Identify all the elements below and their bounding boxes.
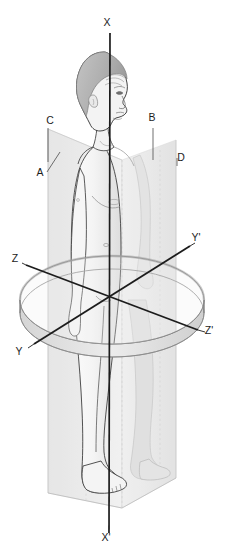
axis-label-y-prime: Y' xyxy=(191,231,200,243)
figure-canvas: X X' Y Y' Z Z' A B C D xyxy=(0,0,227,560)
axis-label-y: Y xyxy=(15,345,22,357)
plane-label-d: D xyxy=(177,151,185,163)
eye xyxy=(116,92,123,95)
axis-label-x: X xyxy=(103,16,110,28)
axis-line-x xyxy=(109,33,110,533)
plane-label-c: C xyxy=(46,114,54,126)
anatomical-planes-figure: X X' Y Y' Z Z' A B C D xyxy=(0,0,227,560)
plane-label-a: A xyxy=(36,166,43,178)
axis-label-z: Z xyxy=(12,252,19,264)
axis-label-x-prime: X' xyxy=(101,531,110,543)
plane-label-b: B xyxy=(148,111,155,123)
transverse-plane-ring xyxy=(20,256,204,357)
axis-label-z-prime: Z' xyxy=(205,324,213,336)
